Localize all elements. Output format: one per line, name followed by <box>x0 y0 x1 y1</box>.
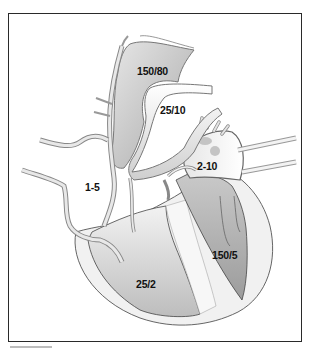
label-aorta: 150/80 <box>137 65 168 77</box>
label-right-ventricle: 25/2 <box>136 278 156 290</box>
label-right-atrium: 1-5 <box>85 181 100 193</box>
label-left-atrium: 2-10 <box>197 160 217 172</box>
heart-illustration <box>0 0 312 350</box>
label-pulmonary-artery: 25/10 <box>160 104 185 116</box>
label-left-ventricle: 150/5 <box>212 249 237 261</box>
footer-divider <box>10 346 52 348</box>
